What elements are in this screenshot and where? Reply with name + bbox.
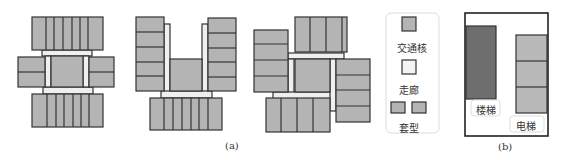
- legend-unit-swatch-1: [391, 102, 405, 113]
- figure-canvas: [0, 0, 562, 160]
- legend-core-swatch: [402, 17, 416, 31]
- caption-b: (b): [498, 141, 512, 152]
- legend-label-core: 交通核: [397, 40, 427, 55]
- plan-u-shape: [136, 17, 236, 130]
- legend-unit-swatch-2: [412, 102, 426, 113]
- plan-cross-shape: [18, 17, 114, 127]
- legend-corridor-swatch: [402, 60, 416, 74]
- legend-label-corridor: 走廊: [399, 82, 419, 97]
- legend: [386, 13, 439, 133]
- legend-label-unit: 套型: [399, 120, 419, 135]
- elevator-label: 电梯: [516, 118, 536, 133]
- stair-block: [466, 26, 496, 99]
- caption-a: (a): [225, 140, 239, 151]
- elevator-block: [516, 35, 547, 113]
- stair-label: 楼梯: [476, 102, 496, 117]
- plan-pinwheel-shape: [254, 17, 370, 132]
